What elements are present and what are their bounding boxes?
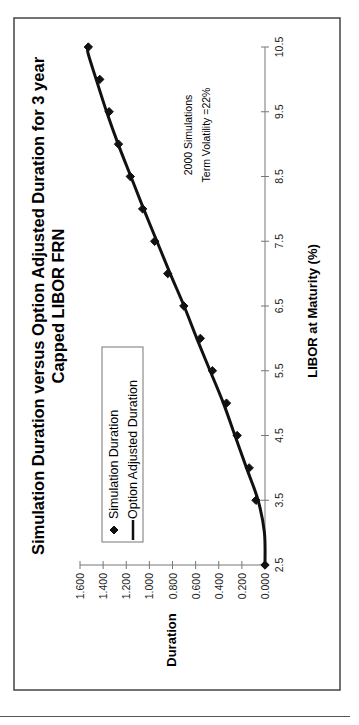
y-axis-label: Duration (164, 613, 179, 667)
y-tick-label: 0.400 (213, 573, 225, 599)
y-tick-label: 1.600 (74, 573, 86, 599)
chart-title-line-2: Capped LIBOR FRN (49, 229, 67, 384)
annotation-term-volatility: Term Volatility =22% (200, 88, 212, 183)
y-tick-label: 0.000 (259, 573, 271, 599)
annotation-simulations: 2000 Simulations (182, 95, 194, 176)
y-tick-label: 1.000 (143, 573, 155, 599)
x-tick-label: 6.5 (273, 299, 285, 314)
y-tick-label: 0.800 (167, 573, 179, 599)
legend-label-option-adjusted-duration: Option Adjusted Duration (126, 380, 140, 519)
y-tick-label: 0.200 (236, 573, 248, 599)
y-tick-label: 1.400 (97, 573, 109, 599)
x-tick-label: 5.5 (273, 363, 285, 378)
x-tick-label: 2.5 (273, 558, 285, 573)
y-tick-label: 1.200 (120, 573, 132, 599)
x-tick-label: 7.5 (273, 234, 285, 249)
simulation-duration-point (261, 561, 269, 569)
x-tick-label: 4.5 (273, 428, 285, 443)
y-axis: 0.0000.2000.4000.6000.8001.0001.2001.400… (74, 561, 271, 599)
x-tick-label: 9.5 (273, 104, 285, 119)
chart-title-line-1: Simulation Duration versus Option Adjust… (29, 56, 47, 555)
chart: Simulation Duration versus Option Adjust… (0, 0, 359, 725)
legend: Simulation Duration Option Adjusted Dura… (102, 347, 143, 542)
y-tick-label: 0.600 (190, 573, 202, 599)
legend-label-simulation-duration: Simulation Duration (107, 410, 121, 519)
simulation-duration-point (84, 43, 92, 51)
x-tick-label: 3.5 (273, 493, 285, 508)
x-axis: 2.53.54.55.56.57.58.59.510.5 (261, 37, 285, 573)
x-axis-label: LIBOR at Maturity (%) (305, 244, 320, 378)
annotation: 2000 Simulations Term Volatility =22% (182, 88, 212, 183)
rotated-chart-container: Simulation Duration versus Option Adjust… (0, 0, 359, 725)
x-tick-label: 8.5 (273, 169, 285, 184)
x-tick-label: 10.5 (273, 37, 285, 58)
